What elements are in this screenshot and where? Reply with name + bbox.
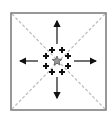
plus-icon — [49, 47, 55, 53]
plus-icon — [59, 69, 65, 75]
radial-spread-diagram — [0, 0, 110, 116]
plus-icon — [65, 63, 71, 69]
plus-icon — [43, 53, 49, 59]
plus-icon — [65, 53, 71, 59]
plus-icon — [49, 69, 55, 75]
